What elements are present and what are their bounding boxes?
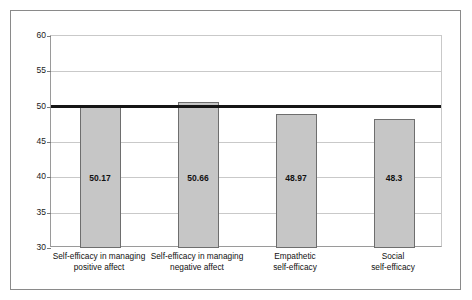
category-label-line: Empathetic (247, 251, 343, 262)
category-label-line: Self-efficacy in managing (149, 251, 245, 262)
x-axis-category-label: Self-efficacy in managingpositive affect (50, 251, 148, 285)
x-axis-category-label: Socialself-efficacy (344, 251, 442, 285)
category-label-line: Self-efficacy in managing (51, 251, 147, 262)
bar: 48.3 (374, 119, 415, 248)
bar: 50.17 (80, 105, 121, 248)
y-axis-tick-label: 50 (24, 101, 46, 110)
category-label-line: self-efficacy (345, 262, 441, 273)
y-axis-tick-label: 30 (24, 243, 46, 252)
y-axis-tick-label: 45 (24, 137, 46, 146)
y-axis-tick-mark (47, 36, 51, 37)
plot-area: 50.1750.6648.9748.3 (50, 35, 442, 247)
bar-value-label: 48.3 (375, 174, 414, 183)
y-axis-tick-mark (47, 248, 51, 249)
y-axis: 30354045505560 (20, 35, 46, 247)
y-axis-tick-label: 55 (24, 66, 46, 75)
x-axis-category-labels: Self-efficacy in managingpositive affect… (50, 251, 442, 285)
chart-figure: 30354045505560 50.1750.6648.9748.3 Self-… (0, 0, 472, 300)
category-label-line: positive affect (51, 262, 147, 273)
y-axis-tick-label: 40 (24, 172, 46, 181)
bar: 50.66 (178, 102, 219, 248)
y-axis-tick-label: 35 (24, 207, 46, 216)
category-label-line: negative affect (149, 262, 245, 273)
reference-line (51, 105, 441, 108)
y-axis-tick-label: 60 (24, 31, 46, 40)
bar-value-label: 50.66 (179, 174, 218, 183)
category-label-line: self-efficacy (247, 262, 343, 273)
x-axis-category-label: Self-efficacy in managingnegative affect (148, 251, 246, 285)
category-label-line: Social (345, 251, 441, 262)
x-axis-category-label: Empatheticself-efficacy (246, 251, 344, 285)
gridline (51, 71, 441, 72)
bar-value-label: 48.97 (277, 174, 316, 183)
bar: 48.97 (276, 114, 317, 248)
bar-value-label: 50.17 (81, 174, 120, 183)
